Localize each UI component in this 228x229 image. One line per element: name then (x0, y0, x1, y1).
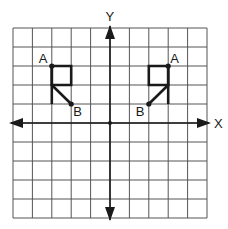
point-a (49, 63, 54, 68)
square-shape (149, 66, 168, 85)
labels: XYABAB (39, 9, 223, 131)
diagonal-line (149, 85, 168, 104)
x-axis-label: X (214, 116, 223, 131)
right-figure (146, 63, 171, 106)
point-label-a: A (39, 51, 48, 66)
left-figure (49, 63, 74, 106)
coordinate-grid-diagram: XYABAB (0, 0, 228, 229)
diagonal-line (52, 85, 71, 104)
x-axis-left-arrow-icon (9, 118, 23, 128)
x-axis-right-arrow-icon (197, 118, 211, 128)
point-label-b: B (73, 104, 82, 119)
point-label-b: B (136, 104, 145, 119)
y-axis-down-arrow-icon (105, 207, 115, 221)
square-shape (52, 66, 71, 85)
point-label-a: A (170, 51, 179, 66)
y-axis-up-arrow-icon (105, 25, 115, 39)
point-b (146, 101, 151, 106)
y-axis-label: Y (106, 9, 115, 24)
origin-dot (108, 121, 112, 125)
